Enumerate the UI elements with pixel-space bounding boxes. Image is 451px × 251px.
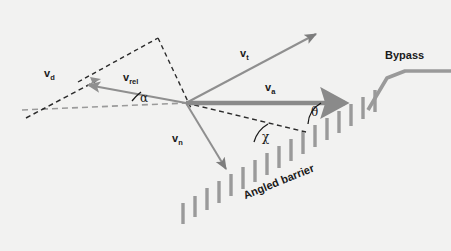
vector-diagram-figure: vd vrel vt va vn α χ θ Angled barrier By… — [0, 0, 451, 251]
label-v-a: va — [265, 82, 275, 96]
label-v-d: vd — [44, 68, 55, 82]
vector-v-n — [186, 103, 226, 169]
bypass-line — [368, 71, 451, 110]
label-angle-alpha: α — [140, 92, 148, 104]
label-bypass: Bypass — [385, 50, 424, 61]
diagram-canvas — [0, 0, 451, 251]
vector-v-rel — [88, 85, 186, 103]
label-v-rel: vrel — [123, 72, 138, 86]
vd-dashed-line — [26, 81, 96, 118]
label-angle-theta: θ — [311, 106, 318, 118]
vector-v-t — [186, 34, 316, 103]
horizontal-reference-dashed-line — [22, 103, 186, 110]
angled-barrier — [183, 90, 375, 224]
construction-line-right — [158, 38, 191, 108]
barrier-reference-dashed-line — [186, 103, 306, 132]
label-v-t: vt — [240, 48, 249, 62]
label-angle-chi: χ — [262, 131, 269, 143]
label-v-n: vn — [172, 133, 183, 147]
construction-line-left — [78, 38, 158, 82]
